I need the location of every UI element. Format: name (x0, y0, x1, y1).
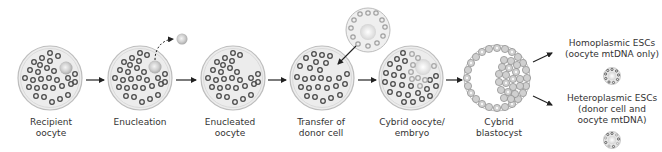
label-line: oocyte (30, 128, 72, 139)
label-line: (oocyte mtDNA only) (565, 49, 659, 60)
label-line: Enucleated (205, 117, 255, 128)
label-line: donor cell (297, 128, 345, 139)
transfer-donor-cell (290, 8, 390, 110)
homoplasmic-esc-icon (604, 68, 621, 85)
label-cybrid-blastocyst: Cybrid blastocyst (476, 117, 522, 139)
label-line: Recipient (30, 117, 72, 128)
label-line: Enucleation (114, 117, 167, 128)
label-recipient-oocyte: Recipient oocyte (30, 117, 72, 139)
label-line: embryo (379, 128, 444, 139)
label-heteroplasmic-escs: Heteroplasmic ESCs (donor cell and oocyt… (567, 93, 657, 126)
label-cybrid-oocyte-embryo: Cybrid oocyte/ embryo (379, 117, 444, 139)
recipient-oocyte-cell (18, 46, 82, 110)
label-enucleated-oocyte: Enucleated oocyte (205, 117, 255, 139)
label-transfer-donor-cell: Transfer of donor cell (297, 117, 345, 139)
arrow-heteroplasmic (533, 96, 552, 105)
cybrid-oocyte-cell (379, 46, 443, 110)
label-line: oocyte (205, 128, 255, 139)
heteroplasmic-esc-icon (604, 132, 621, 149)
ejected-nucleus-icon (177, 34, 188, 45)
label-line: Transfer of (297, 117, 345, 128)
label-line: Cybrid (476, 117, 522, 128)
label-line: Heteroplasmic ESCs (567, 93, 657, 104)
label-homoplasmic-escs: Homoplasmic ESCs (oocyte mtDNA only) (565, 38, 659, 60)
diagram-canvas: Recipient oocyte Enucleation Enucleated … (0, 0, 662, 152)
label-line: (donor cell and (567, 104, 657, 115)
enucleated-oocyte-cell (201, 46, 265, 110)
label-line: oocyte mtDNA) (567, 115, 657, 126)
label-line: Homoplasmic ESCs (565, 38, 659, 49)
label-enucleation: Enucleation (114, 117, 167, 128)
enucleation-cell (108, 34, 188, 111)
cybrid-blastocyst-cell (463, 44, 530, 111)
donor-cell-icon (346, 8, 390, 52)
label-line: Cybrid oocyte/ (379, 117, 444, 128)
label-line: blastocyst (476, 128, 522, 139)
donor-nucleus-icon (415, 59, 431, 75)
nucleus-icon (149, 61, 162, 74)
nucleus-icon (60, 62, 73, 75)
arrow-homoplasmic (533, 53, 552, 62)
